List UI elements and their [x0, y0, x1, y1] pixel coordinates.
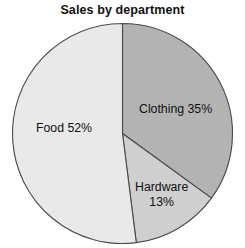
slice-label-hardware-value: 13%	[135, 195, 188, 210]
slice-label-hardware: Hardware 13%	[135, 180, 188, 211]
slice-label-food: Food 52%	[36, 121, 92, 136]
pie-chart: Clothing 35% Food 52% Hardware 13%	[0, 0, 245, 248]
slice-label-hardware-name: Hardware	[135, 180, 188, 195]
slice-label-clothing: Clothing 35%	[139, 102, 212, 117]
